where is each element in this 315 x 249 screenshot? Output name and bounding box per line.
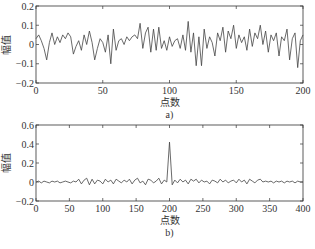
plot-b: 050100150200250300350400−0.200.20.40.6幅值… xyxy=(0,120,311,240)
y-tick-label: 0.1 xyxy=(22,20,35,31)
y-tick-label: 0 xyxy=(29,39,34,50)
x-tick-label: 400 xyxy=(296,203,311,214)
x-tick-label: 50 xyxy=(98,85,108,96)
y-tick-label: 0 xyxy=(29,177,34,188)
x-tick-label: 100 xyxy=(162,85,177,96)
x-axis-label: 点数 xyxy=(160,214,180,226)
y-tick-label: 0.4 xyxy=(22,139,35,150)
x-tick-label: 150 xyxy=(129,203,144,214)
x-tick-label: 100 xyxy=(95,203,110,214)
plot-a: 050100150200−0.2−0.100.10.2幅值点数a) xyxy=(0,1,311,122)
x-axis-label: 点数 xyxy=(160,96,180,108)
y-tick-label: 0.2 xyxy=(22,1,35,12)
y-tick-label: 0.2 xyxy=(22,158,35,169)
y-axis-label: 幅值 xyxy=(0,35,12,55)
data-line xyxy=(36,142,303,185)
x-tick-label: 150 xyxy=(229,85,244,96)
x-tick-label: 200 xyxy=(296,85,311,96)
x-tick-label: 350 xyxy=(262,203,277,214)
axes-box xyxy=(36,125,303,201)
panel-caption: b) xyxy=(165,227,173,239)
y-axis-label: 幅值 xyxy=(0,153,12,173)
y-tick-label: −0.2 xyxy=(16,196,34,207)
panel-caption: a) xyxy=(166,109,174,121)
x-tick-label: 0 xyxy=(34,203,39,214)
x-tick-label: 200 xyxy=(162,203,177,214)
x-tick-label: 300 xyxy=(229,203,244,214)
data-line xyxy=(36,21,303,67)
y-tick-label: −0.2 xyxy=(16,78,34,89)
chart-figure: 050100150200−0.2−0.100.10.2幅值点数a) 050100… xyxy=(0,0,315,249)
x-tick-label: 250 xyxy=(195,203,210,214)
y-tick-label: 0.6 xyxy=(22,120,35,131)
x-tick-label: 0 xyxy=(34,85,39,96)
x-tick-label: 50 xyxy=(64,203,74,214)
y-tick-label: −0.1 xyxy=(16,58,34,69)
